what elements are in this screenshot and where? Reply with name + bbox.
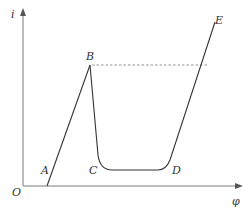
- passivation-diagram: i φ O A B C D E: [0, 0, 250, 211]
- segment-a-b: [47, 65, 90, 186]
- y-axis-arrow-icon: [20, 8, 26, 16]
- origin-label: O: [12, 186, 21, 199]
- x-axis-arrow-icon: [235, 183, 243, 189]
- x-axis-label: φ: [232, 195, 240, 208]
- x-axis: [23, 183, 243, 189]
- y-axis-label: i: [11, 8, 15, 21]
- point-label-a: A: [40, 164, 49, 177]
- point-label-e: E: [214, 14, 223, 27]
- point-label-b: B: [85, 50, 94, 63]
- y-axis: [20, 8, 26, 186]
- point-label-c: C: [89, 164, 98, 177]
- point-label-d: D: [171, 164, 181, 177]
- segment-b-c-d-e: [90, 22, 215, 170]
